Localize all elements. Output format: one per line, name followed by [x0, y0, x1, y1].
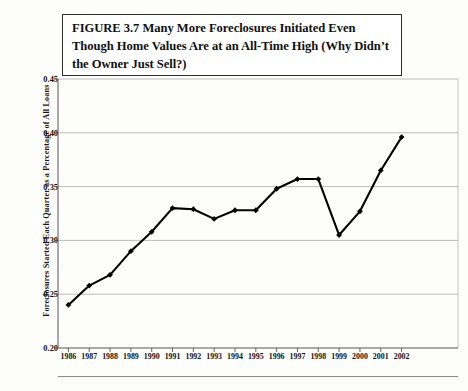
page-footer-rule — [58, 376, 458, 377]
x-axis-tick-label: 2002 — [385, 352, 419, 361]
data-point-marker — [232, 207, 238, 213]
data-series-line — [68, 137, 401, 305]
axis-lines — [58, 79, 458, 348]
line-chart-plot — [0, 0, 468, 391]
chart-container: Foreclosures Started Each Quarter as a P… — [0, 0, 468, 391]
figure-page: FIGURE 3.7 Many More Foreclosures Initia… — [0, 0, 468, 391]
data-point-marker — [315, 176, 321, 182]
series-polyline — [68, 137, 401, 305]
gridlines — [54, 79, 458, 348]
data-series-markers — [66, 134, 405, 308]
